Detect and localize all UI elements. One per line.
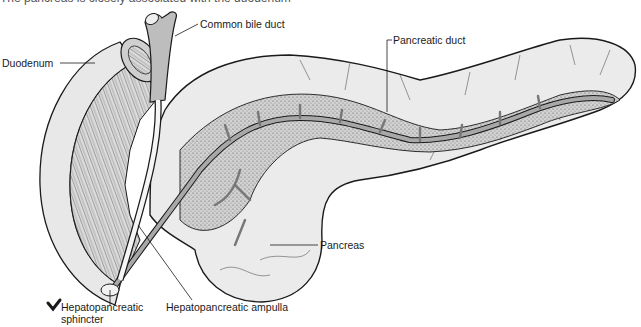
pancreas-anatomy-illustration <box>0 0 641 327</box>
label-pancreatic-duct: Pancreatic duct <box>393 34 465 46</box>
pancreas-shape <box>150 38 635 302</box>
label-hepatopancreatic-sphincter-line1: Hepatopancreatic <box>61 301 143 313</box>
label-hepatopancreatic-sphincter-line2: sphincter <box>61 313 104 325</box>
label-hepatopancreatic-ampulla: Hepatopancreatic ampulla <box>166 301 288 313</box>
label-duodenum: Duodenum <box>2 57 53 69</box>
label-common-bile-duct: Common bile duct <box>200 18 285 30</box>
label-pancreas: Pancreas <box>320 239 364 251</box>
leader-common-bile-duct <box>175 24 198 36</box>
check-mark-icon <box>48 300 60 309</box>
